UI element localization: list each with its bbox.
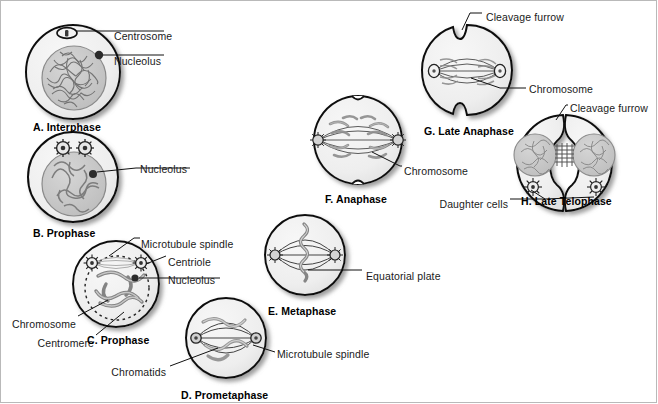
panel-caption-h: H. Late Telophase	[521, 196, 612, 207]
panel-caption-b: B. Prophase	[33, 228, 95, 239]
panel-caption-d: D. Prometaphase	[181, 390, 268, 401]
panel-caption-c: C. Prophase	[87, 335, 149, 346]
panel-b-prophase	[28, 132, 190, 222]
annotation-label-c_spindle: Microtubule spindle	[141, 239, 233, 250]
annotation-label-c_nucleolus: Nucleolus	[168, 275, 215, 286]
panel-g-late-anaphase	[422, 13, 526, 115]
annotation-label-g_furrow: Cleavage furrow	[486, 12, 564, 23]
annotation-label-c_centromere: Centromere	[38, 338, 94, 349]
annotation-label-f_chromosome: Chromosome	[404, 166, 468, 177]
panel-e-metaphase	[265, 215, 362, 295]
panel-caption-g: G. Late Anaphase	[424, 126, 514, 137]
annotation-label-h_furrow: Cleavage furrow	[570, 103, 648, 114]
annotation-label-b_nucleolus: Nucleolus	[140, 164, 187, 175]
mitosis-diagram: CentrosomeNucleolusNucleolusMicrotubule …	[0, 0, 658, 404]
panel-caption-f: F. Anaphase	[325, 194, 387, 205]
annotation-label-d_chromatids: Chromatids	[111, 367, 166, 378]
panel-caption-a: A. Interphase	[33, 122, 101, 133]
annotation-label-a_centrosome: Centrosome	[114, 31, 172, 42]
annotation-label-g_chromosome: Chromosome	[529, 84, 593, 95]
annotation-label-h_daughter: Daughter cells	[439, 199, 508, 210]
panel-f-anaphase	[310, 96, 406, 184]
annotation-label-c_chromosome: Chromosome	[12, 319, 76, 330]
annotation-label-e_eqplate: Equatorial plate	[366, 271, 441, 282]
annotation-label-a_nucleolus: Nucleolus	[114, 56, 161, 67]
panel-d-prometaphase	[170, 298, 275, 378]
annotation-label-c_centriole: Centriole	[168, 257, 211, 268]
panel-caption-e: E. Metaphase	[268, 306, 336, 317]
annotation-label-d_spindle: Microtubule spindle	[277, 349, 369, 360]
